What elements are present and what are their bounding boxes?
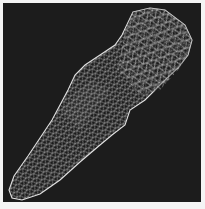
tooth-wireframe-mesh (0, 0, 205, 209)
